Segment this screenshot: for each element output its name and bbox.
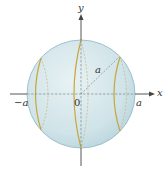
x-axis-label: x <box>157 88 163 98</box>
radius-label: a <box>95 65 101 75</box>
y-axis-label: y <box>78 3 84 13</box>
sphere-diagram <box>0 0 168 170</box>
x-axis-arrow-icon <box>149 92 155 97</box>
origin-label: 0 <box>74 98 80 108</box>
neg-a-label: −a <box>14 98 28 108</box>
y-axis-arrow-icon <box>79 14 84 20</box>
pos-a-label: a <box>136 98 142 108</box>
